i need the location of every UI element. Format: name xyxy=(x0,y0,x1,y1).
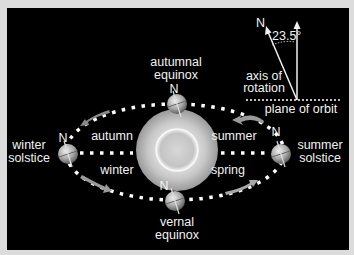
inset-north: N xyxy=(256,16,265,30)
earth-summer-solstice xyxy=(271,141,291,167)
axis-arrowhead-icon xyxy=(265,26,272,35)
vernal-north: N xyxy=(159,179,168,193)
summer-label-2: solstice xyxy=(299,151,341,165)
plane-label: plane of orbit xyxy=(265,102,338,116)
winter-label-1: winter xyxy=(11,138,45,152)
sun xyxy=(136,109,218,191)
vernal-label-2: equinox xyxy=(155,228,200,242)
season-spring: spring xyxy=(211,163,245,177)
arrow-icon xyxy=(80,175,112,193)
tilt-angle: 23.5° xyxy=(272,29,301,43)
axis-label-2: rotation xyxy=(243,81,285,95)
vertical-arrowhead-icon xyxy=(294,21,301,29)
vernal-label-1: vernal xyxy=(160,215,194,229)
winter-north: N xyxy=(58,131,67,145)
summer-north: N xyxy=(271,125,280,139)
season-summer: summer xyxy=(211,129,256,143)
season-winter: winter xyxy=(99,163,133,177)
orbit-diagram: autumnal equinox N winter solstice N sum… xyxy=(0,0,354,255)
winter-label-2: solstice xyxy=(8,151,50,165)
autumnal-label-1: autumnal xyxy=(150,55,201,69)
arrow-icon xyxy=(225,180,258,195)
summer-label-1: summer xyxy=(297,138,342,152)
season-autumn: autumn xyxy=(91,129,133,143)
autumnal-label-2: equinox xyxy=(154,68,199,82)
autumnal-north: N xyxy=(169,82,178,96)
arrow-icon xyxy=(80,110,110,126)
